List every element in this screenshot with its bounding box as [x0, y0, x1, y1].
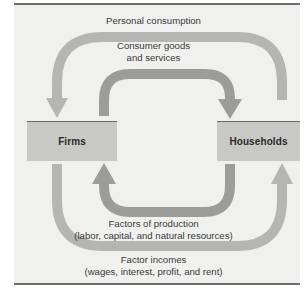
factors-line2: (labor, capital, and natural resources) — [0, 230, 307, 242]
firms-node: Firms — [27, 121, 117, 161]
arrowhead-down-icon — [218, 99, 242, 119]
factors-line1: Factors of production — [0, 218, 307, 230]
incomes-line2: (wages, interest, profit, and rent) — [0, 266, 307, 278]
households-node: Households — [217, 121, 300, 161]
incomes-line1: Factor incomes — [0, 254, 307, 266]
inner-bottom-arrow — [92, 163, 230, 212]
factor-incomes-label: Factor incomes (wages, interest, profit,… — [0, 254, 307, 278]
inner-top-arrow — [104, 74, 242, 119]
arrowhead-down-icon — [46, 98, 68, 118]
consumer-goods-label: Consumer goods and services — [0, 40, 307, 64]
arrowhead-up-icon — [271, 163, 293, 184]
factors-of-production-label: Factors of production (labor, capital, a… — [0, 218, 307, 242]
arrowhead-up-icon — [92, 163, 116, 184]
consumer-goods-line2: and services — [0, 52, 307, 64]
personal-consumption-text: Personal consumption — [106, 15, 201, 26]
personal-consumption-label: Personal consumption — [0, 15, 307, 27]
consumer-goods-line1: Consumer goods — [0, 40, 307, 52]
firms-label: Firms — [58, 136, 86, 147]
households-label: Households — [229, 136, 287, 147]
